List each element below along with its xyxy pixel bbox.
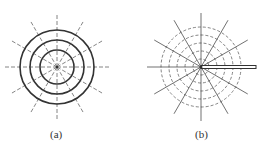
caption-a: (a) [50,128,62,140]
center-dot [56,66,58,68]
dashed-radial-line [57,67,102,93]
figure-canvas [0,0,268,154]
dashed-radial-line [12,41,57,67]
caption-b: (b) [195,128,208,140]
dashed-radial-line [57,67,83,112]
dashed-radial-line [12,67,57,93]
diagram-b [147,13,256,121]
dashed-radial-line [57,41,102,67]
thick-bar [201,66,256,69]
dashed-radial-line [31,22,57,67]
center-dot [200,66,203,69]
diagram-a [5,15,109,119]
dashed-radial-line [31,67,57,112]
dashed-radial-line [57,22,83,67]
